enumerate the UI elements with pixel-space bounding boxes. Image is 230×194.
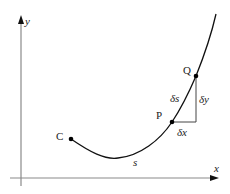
- y-axis-label: y: [24, 15, 30, 27]
- label-delta-x: δx: [177, 126, 187, 138]
- x-axis: [10, 175, 219, 181]
- label-q: Q: [183, 64, 191, 76]
- x-axis-arrow-icon: [210, 175, 219, 181]
- diagram-canvas: y x C P Q s δs δy δx: [0, 0, 230, 194]
- x-axis-label: x: [213, 162, 219, 174]
- point-q: [194, 74, 199, 79]
- y-axis-arrow-icon: [18, 15, 24, 24]
- label-delta-s: δs: [170, 92, 179, 104]
- curve-s: [71, 14, 216, 158]
- point-p: [170, 120, 175, 125]
- label-c: C: [56, 130, 63, 142]
- label-arc-s: s: [133, 156, 137, 168]
- point-c: [69, 137, 74, 142]
- y-axis: [18, 15, 24, 186]
- label-delta-y: δy: [199, 93, 209, 105]
- label-p: P: [156, 109, 162, 121]
